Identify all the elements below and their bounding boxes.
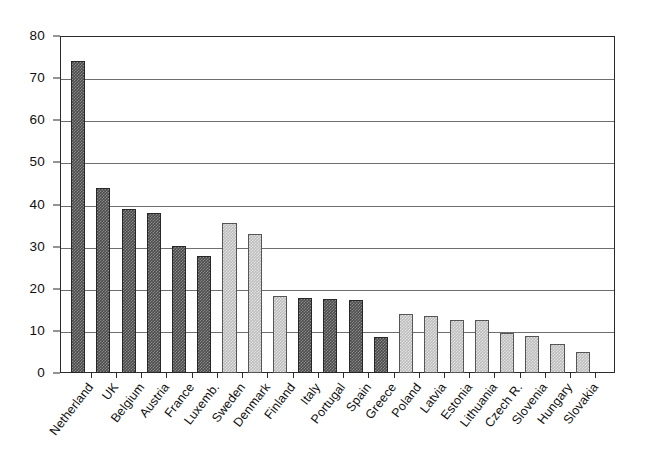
x-axis-labels: NetherlandUKBelgiumAustriaFranceLuxemb.S… [0,0,669,460]
bar-chart-figure: 01020304050607080 NetherlandUKBelgiumAus… [0,0,669,460]
x-tick-label-netherland: Netherland [48,381,96,438]
x-tick-label-uk: UK [101,381,122,403]
